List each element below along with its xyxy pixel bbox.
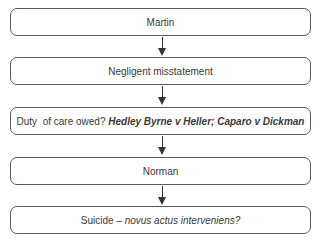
node-label: Suicide – novus actus interveniens?: [81, 215, 241, 226]
case-citation: Hedley Byrne v Heller; Caparo v Dickman: [108, 116, 304, 127]
node-martin: Martin: [10, 8, 311, 36]
node-label: Norman: [143, 166, 179, 177]
node-label-plain: Duty of care owed?: [17, 116, 109, 127]
node-label-plain: Suicide –: [81, 215, 125, 226]
node-label: Duty of care owed? Hedley Byrne v Heller…: [17, 116, 305, 127]
latin-phrase: novus actus interveniens?: [125, 215, 241, 226]
node-norman: Norman: [10, 157, 311, 185]
node-label: Negligent misstatement: [108, 66, 213, 77]
node-duty-of-care: Duty of care owed? Hedley Byrne v Heller…: [10, 107, 311, 135]
node-negligent-misstatement: Negligent misstatement: [10, 57, 311, 85]
node-suicide: Suicide – novus actus interveniens?: [10, 206, 311, 234]
node-label: Martin: [147, 17, 175, 28]
